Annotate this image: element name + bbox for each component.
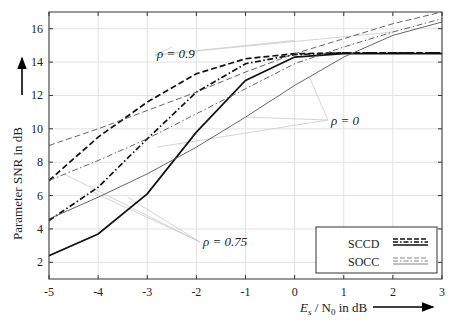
x-tick-label: 1: [341, 285, 347, 299]
x-tick-label: -3: [142, 285, 152, 299]
x-tick-label: -2: [191, 285, 201, 299]
y-tick-label: 6: [37, 189, 43, 203]
annotation-rho-0-9: ρ = 0.9: [156, 46, 195, 61]
y-tick-label: 14: [31, 55, 43, 69]
x-tick-label: -5: [44, 285, 54, 299]
annotation-rho-0: ρ = 0: [330, 113, 360, 128]
y-tick-label: 4: [37, 222, 43, 236]
x-tick-label: -4: [93, 285, 103, 299]
x-tick-label: 0: [292, 285, 298, 299]
y-axis-label: Parameter SNR in dB: [10, 127, 25, 240]
x-tick-label: 2: [390, 285, 396, 299]
annotation-rho-0-75: ρ = 0.75: [202, 234, 248, 249]
y-tick-label: 12: [31, 88, 43, 102]
y-tick-label: 16: [31, 22, 43, 36]
x-axis-label: Es / N0 in dB: [299, 300, 368, 317]
legend-label-socc: SOCC: [348, 255, 379, 269]
chart-canvas: -5-4-3-2-10123246810121416 Parameter SNR…: [0, 0, 455, 327]
x-tick-label: 3: [439, 285, 445, 299]
y-tick-label: 2: [37, 255, 43, 269]
legend: SCCD SOCC: [316, 227, 437, 273]
y-tick-label: 10: [31, 122, 43, 136]
x-tick-label: -1: [241, 285, 251, 299]
y-tick-label: 8: [37, 155, 43, 169]
legend-label-sccd: SCCD: [348, 237, 380, 251]
